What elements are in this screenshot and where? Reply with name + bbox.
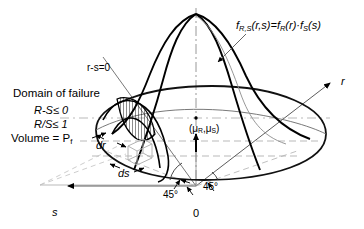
- s-axis-label: s: [52, 207, 58, 218]
- base-grid: [40, 118, 330, 185]
- origin-label: 0: [193, 208, 199, 219]
- domain-of-failure-title: Domain of failure: [13, 88, 100, 100]
- reliability-density-diagram: Domain of failure R-S≤ 0 R/S≤ 1 Volume =…: [0, 0, 364, 229]
- failure-condition-difference: R-S≤ 0: [34, 105, 68, 116]
- failure-probability-volume: Volume = Pf: [11, 133, 72, 146]
- volume-callout-pointer: [92, 133, 106, 138]
- mean-mid: ,μ: [203, 123, 212, 134]
- formula-f1-sub: R,S: [239, 24, 251, 33]
- dr-label: dr: [96, 140, 106, 151]
- angle-label-right: 45°: [203, 182, 218, 192]
- angle-arc-right: [212, 172, 218, 180]
- failure-condition-ratio: R/S≤ 1: [34, 119, 68, 130]
- volume-text: Volume = P: [11, 132, 70, 144]
- formula-args2: (r)·: [285, 19, 300, 31]
- ds-label: ds: [118, 168, 130, 179]
- angle-label-left: 45°: [163, 190, 178, 200]
- limit-state-label: r-s=0: [87, 63, 110, 73]
- formula-args1: (r,s)=: [252, 19, 277, 31]
- r-axis-label: r: [341, 76, 345, 87]
- mean-close: ): [216, 123, 219, 134]
- mean-point-label: (μR,μS): [189, 124, 219, 135]
- formula-args3: (s): [308, 19, 321, 31]
- volume-subscript: f: [70, 137, 72, 146]
- mean-open: (μ: [189, 123, 198, 134]
- mean-point-marker: [194, 116, 197, 119]
- joint-density-formula: fR,S(r,s)=fR(r)·fS(s): [236, 20, 321, 32]
- density-surface: [112, 14, 310, 170]
